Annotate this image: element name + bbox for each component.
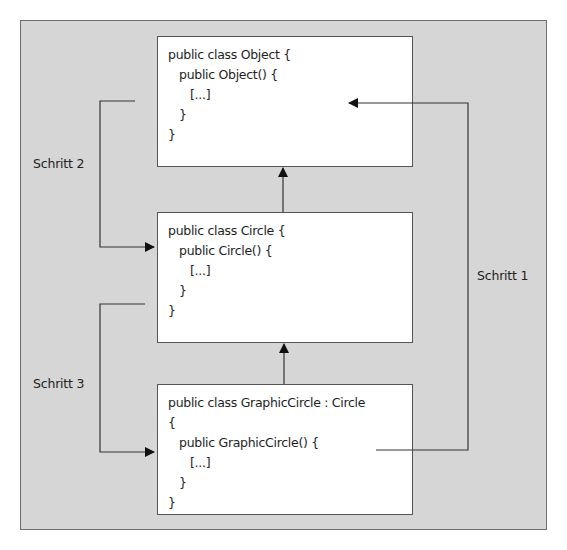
step2-arrow: [100, 101, 154, 247]
step3-arrow: [100, 304, 154, 452]
step1-label: Schritt 1: [477, 268, 528, 283]
step1-arrow: [349, 103, 468, 450]
step3-label: Schritt 3: [33, 376, 84, 391]
step2-label: Schritt 2: [33, 156, 84, 171]
